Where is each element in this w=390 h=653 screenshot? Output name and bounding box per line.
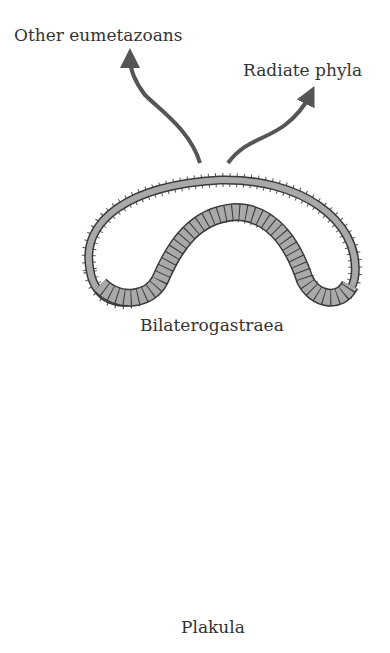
- arrow-other-eumetazoans: [130, 58, 200, 163]
- label-other-eumetazoans: Other eumetazoans: [14, 25, 182, 45]
- label-plakula: Plakula: [181, 617, 245, 637]
- label-radiate-phyla: Radiate phyla: [243, 60, 362, 80]
- label-bilaterogastraea: Bilaterogastraea: [140, 315, 284, 335]
- bilaterogastraea-organism: [89, 180, 356, 302]
- arrow-radiate-phyla: [228, 95, 310, 163]
